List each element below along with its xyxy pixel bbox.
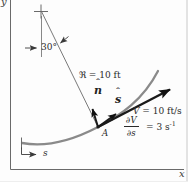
point-A-label: A <box>102 129 108 138</box>
velocity-value: = 10 ft/s <box>140 106 182 116</box>
point-A-dot <box>96 125 99 128</box>
velocity-gradient-value: = 3 s-1 <box>146 121 176 132</box>
gradient-denominator: ∂s <box>124 127 139 138</box>
y-axis-label: y <box>1 0 7 7</box>
page-edge-shading-bottom <box>0 181 188 182</box>
x-axis-label: x <box>179 169 185 179</box>
gradient-numerator: ∂V <box>124 115 139 127</box>
figure-canvas: y x 30° ℜ = 10 ft ˆ n ˆ s A s V = 10 ft/… <box>0 0 188 182</box>
normal-unit-vector-label: ˆ n <box>94 80 102 96</box>
arc-length-label: s <box>43 149 48 158</box>
velocity-label: V = 10 ft/s <box>133 107 182 116</box>
gradient-rhs-text: = 3 s <box>146 122 170 132</box>
normal-letter: n <box>94 85 102 96</box>
gradient-exponent: -1 <box>170 120 176 128</box>
tangent-letter: s <box>115 94 121 105</box>
page-edge-shading-right <box>186 0 188 182</box>
tangent-unit-vector-label: ˆ s <box>115 89 121 105</box>
angle-label: 30° <box>41 43 57 52</box>
angle-dimension-arrow-right <box>61 37 69 44</box>
velocity-gradient-fraction: ∂V ∂s <box>124 115 139 138</box>
arc-length-arrow <box>22 148 37 155</box>
